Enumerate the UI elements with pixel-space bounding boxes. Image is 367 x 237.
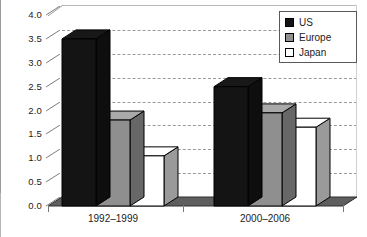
legend: US Europe Japan xyxy=(279,11,357,63)
white-square-icon xyxy=(285,48,294,57)
x-axis-category-label: 2000–2006 xyxy=(220,213,310,225)
legend-label-japan: Japan xyxy=(299,47,326,58)
x-axis-category-label: 1992–1999 xyxy=(68,213,158,225)
x-axis-tick-mark xyxy=(48,205,49,212)
bar-us-1-side[interactable] xyxy=(248,78,262,206)
bar-japan-1-side[interactable] xyxy=(316,118,330,206)
bar-us-0-side[interactable] xyxy=(96,30,110,206)
gray-square-icon xyxy=(285,33,294,42)
legend-item-europe[interactable]: Europe xyxy=(285,30,352,45)
bar-europe-1-side[interactable] xyxy=(282,104,296,206)
bar-europe-0-side[interactable] xyxy=(130,111,144,206)
legend-label-europe: Europe xyxy=(299,32,331,43)
black-square-icon xyxy=(285,18,294,27)
bar-us-1-front[interactable] xyxy=(214,87,248,206)
legend-label-us: US xyxy=(299,17,313,28)
bar-chart: 4.03.53.02.52.01.51.00.50.0 1992–1999200… xyxy=(0,0,367,237)
x-axis-tick-mark xyxy=(343,205,344,212)
x-axis-tick-mark xyxy=(183,205,184,212)
legend-item-japan[interactable]: Japan xyxy=(285,45,352,60)
bar-japan-0-side[interactable] xyxy=(164,147,178,206)
legend-item-us[interactable]: US xyxy=(285,15,352,30)
bar-us-0-front[interactable] xyxy=(62,39,96,206)
plot-area: 4.03.53.02.52.01.51.00.50.0 1992–1999200… xyxy=(0,0,367,237)
